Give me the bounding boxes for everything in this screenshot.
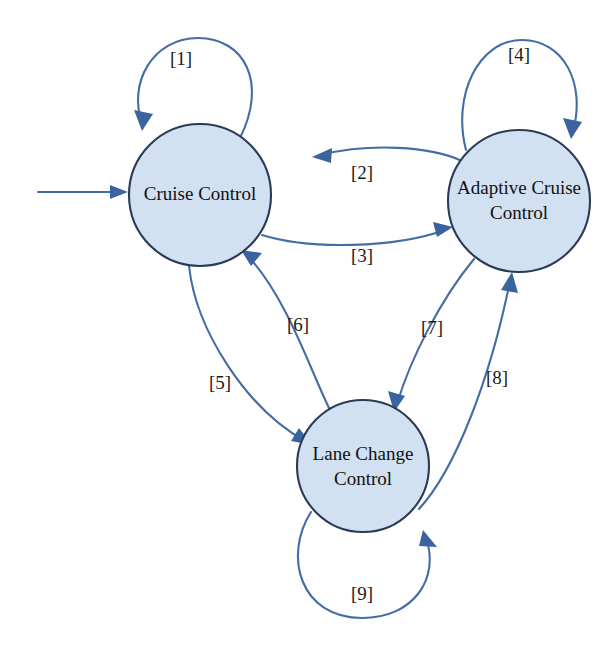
- transition-label-9: [9]: [351, 583, 373, 604]
- transition-9-arrowhead: [419, 530, 437, 547]
- state-label-lane-change-control-line1: Lane Change: [313, 443, 414, 464]
- transition-label-7: [7]: [421, 317, 443, 338]
- state-node-adaptive-cruise-control[interactable]: Adaptive Cruise Control: [448, 130, 590, 272]
- transition-3-path: [262, 230, 445, 245]
- transition-4-arrowhead: [563, 118, 582, 139]
- transition-6: [241, 250, 330, 410]
- transition-label-3: [3]: [351, 245, 373, 266]
- transition-3-arrowhead: [433, 222, 453, 237]
- state-label-cruise-control: Cruise Control: [144, 183, 256, 204]
- transition-8-path: [419, 281, 510, 509]
- transition-label-6: [6]: [287, 314, 309, 335]
- transition-label-4: [4]: [508, 44, 530, 65]
- transition-5-path: [189, 266, 305, 441]
- transition-label-1: [1]: [170, 48, 192, 69]
- state-label-lane-change-control-line2: Control: [334, 468, 392, 489]
- diagram-canvas: Cruise Control Adaptive Cruise Control L…: [0, 0, 613, 653]
- transition-6-arrowhead: [241, 250, 262, 266]
- transition-1-path: [138, 38, 252, 138]
- transition-3: [262, 222, 453, 245]
- state-circle-lane-change-control[interactable]: [297, 400, 429, 532]
- transition-8-arrowhead: [501, 272, 518, 293]
- transition-5: [189, 266, 312, 445]
- transition-2-path: [320, 148, 462, 161]
- initial-transition-arrowhead: [110, 185, 128, 199]
- state-node-cruise-control[interactable]: Cruise Control: [129, 124, 271, 266]
- transition-label-5: [5]: [209, 372, 231, 393]
- initial-transition: [38, 185, 128, 199]
- transition-2: [312, 148, 462, 163]
- transition-1-arrowhead: [134, 110, 153, 131]
- state-label-adaptive-cruise-control-line2: Control: [490, 202, 548, 223]
- state-circle-adaptive-cruise-control[interactable]: [448, 130, 590, 272]
- state-diagram: Cruise Control Adaptive Cruise Control L…: [0, 0, 613, 653]
- transition-label-8: [8]: [486, 367, 508, 388]
- transition-label-2: [2]: [351, 162, 373, 183]
- transition-8: [419, 272, 518, 509]
- state-node-lane-change-control[interactable]: Lane Change Control: [297, 400, 429, 532]
- state-label-adaptive-cruise-control-line1: Adaptive Cruise: [457, 177, 581, 198]
- transition-2-arrowhead: [312, 148, 332, 163]
- transition-1: [134, 38, 252, 138]
